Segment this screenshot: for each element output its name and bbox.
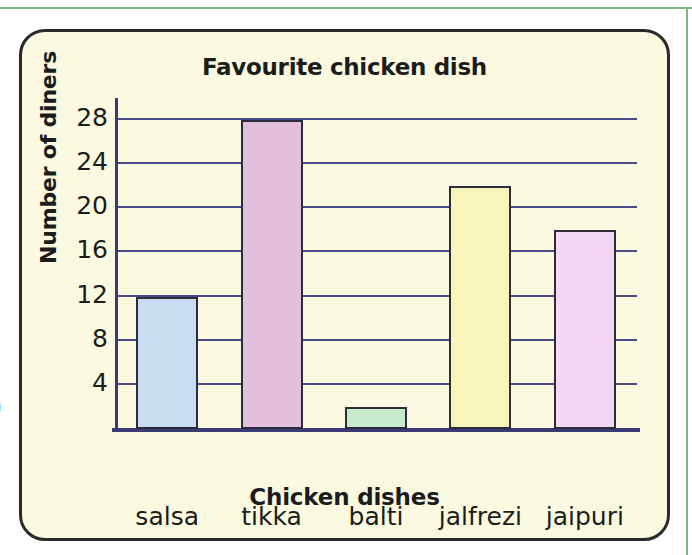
y-axis-tick-label: 16 — [48, 235, 108, 264]
y-axis-tick-label: 8 — [48, 324, 108, 353]
y-axis-tick-label: 24 — [48, 147, 108, 176]
page-frame: ) Favourite chicken dish Number of diner… — [0, 0, 692, 555]
page-rule-right — [686, 7, 688, 555]
bar — [345, 407, 407, 429]
y-axis-line — [115, 98, 118, 429]
bar — [241, 120, 303, 429]
gridline: 24 — [118, 162, 637, 164]
bar — [554, 230, 616, 429]
bar — [449, 186, 511, 429]
chart-card: Favourite chicken dish Number of diners … — [19, 29, 670, 541]
y-axis-tick-label: 20 — [48, 191, 108, 220]
x-axis-title: Chicken dishes — [22, 484, 667, 510]
y-axis-tick-label: 4 — [48, 368, 108, 397]
margin-glyph-artifact: ) — [0, 392, 3, 422]
plot-area: 481216202428 salsatikkabaltijalfrezijaip… — [115, 98, 637, 429]
gridline: 20 — [118, 206, 637, 208]
y-axis-tick-label: 12 — [48, 280, 108, 309]
bar — [136, 297, 198, 429]
page-rule-top — [0, 7, 692, 9]
chart-title: Favourite chicken dish — [22, 54, 667, 80]
y-axis-tick-label: 28 — [48, 103, 108, 132]
gridline: 28 — [118, 118, 637, 120]
